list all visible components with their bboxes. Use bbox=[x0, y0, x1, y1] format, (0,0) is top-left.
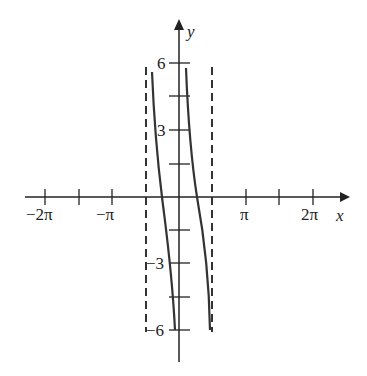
y-tick-label-neg6: −6 bbox=[146, 321, 164, 340]
y-axis-label: y bbox=[185, 22, 195, 41]
y-tick-label-6: 6 bbox=[157, 54, 166, 73]
plot-canvas: y x −2π −π π 2π 6 3 −3 −6 bbox=[0, 0, 367, 376]
x-tick-label-2pi: 2π bbox=[301, 205, 319, 224]
y-tick-label-3: 3 bbox=[157, 121, 166, 140]
y-tick-label-neg3: −3 bbox=[146, 254, 164, 273]
x-tick-label-pi: π bbox=[240, 205, 249, 224]
curve-branch-right bbox=[186, 68, 210, 330]
graph-figure: y x −2π −π π 2π 6 3 −3 −6 bbox=[0, 0, 367, 376]
y-axis-arrow-icon bbox=[174, 19, 184, 30]
curve-branch-left bbox=[152, 72, 175, 330]
x-axis-arrow-icon bbox=[340, 192, 350, 202]
x-tick-label-neg2pi: −2π bbox=[26, 205, 53, 224]
x-axis-label: x bbox=[335, 206, 344, 225]
x-tick-label-negpi: −π bbox=[96, 205, 115, 224]
